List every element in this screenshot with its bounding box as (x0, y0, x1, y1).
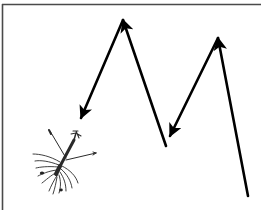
arrow-ascent-1 (123, 20, 166, 146)
larva-illustration (33, 130, 96, 194)
migration-arrows (81, 20, 248, 196)
diagram-svg (0, 0, 261, 210)
arrow-descent-2 (170, 38, 218, 136)
arrow-ascent-2 (218, 38, 248, 196)
frame (2, 4, 261, 210)
arrow-descent-1 (81, 20, 123, 118)
diagram-canvas (0, 0, 261, 210)
